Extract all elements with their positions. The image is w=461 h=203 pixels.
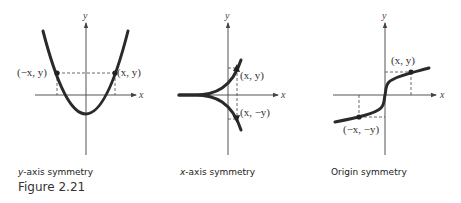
point-upper-label: (x, y): [391, 54, 415, 67]
point-lower-label: (−x, −y): [343, 123, 380, 136]
lower-branch-curve: [179, 95, 241, 130]
upper-branch-curve: [179, 60, 241, 95]
y-axis-label: y: [381, 10, 387, 21]
point-upper-label: (x, y): [240, 69, 264, 82]
point-lower-label: (x, −y): [240, 106, 270, 119]
caption-text: -axis symmetry: [185, 167, 255, 177]
point-right-label: (x, y): [117, 66, 141, 79]
x-axis-label: x: [280, 89, 286, 100]
point-left: [54, 70, 59, 75]
panel-x-axis-symmetry: y x (x, y) (x, −y): [178, 10, 286, 155]
caption-y-axis-symmetry: y-axis symmetry: [18, 167, 93, 177]
caption-text: Origin symmetry: [331, 167, 407, 177]
y-axis-label: y: [82, 10, 88, 21]
y-axis-label: y: [224, 10, 230, 21]
panel-y-axis-symmetry: y x (−x, y) (x, y): [17, 10, 144, 155]
point-upper: [408, 69, 413, 74]
caption-origin-symmetry: Origin symmetry: [331, 167, 407, 177]
caption-x-axis-symmetry: x-axis symmetry: [180, 167, 255, 177]
caption-text: -axis symmetry: [23, 167, 93, 177]
x-axis-label: x: [138, 89, 144, 100]
point-left-label: (−x, y): [17, 66, 47, 79]
point-lower: [356, 114, 361, 119]
figure-number: Figure 2.21: [18, 180, 85, 194]
panel-origin-symmetry: y x (x, y) (−x, −y): [333, 10, 445, 155]
x-axis-label: x: [439, 89, 445, 100]
